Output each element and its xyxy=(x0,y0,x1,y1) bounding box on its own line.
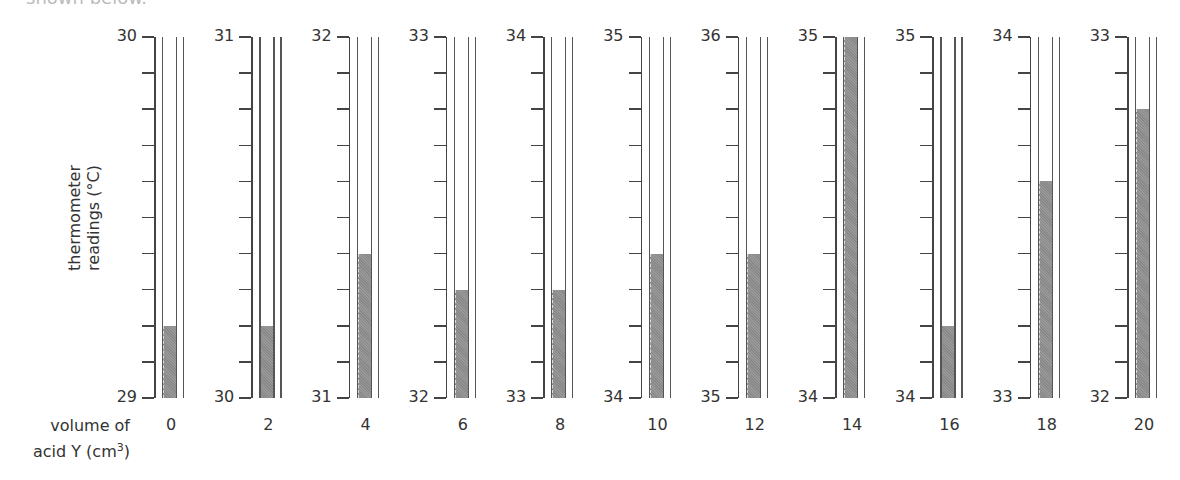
scale-bottom-label: 29 xyxy=(97,387,137,406)
scale-tick xyxy=(1018,217,1030,219)
scale-tick xyxy=(629,325,641,327)
mercury-column xyxy=(1136,109,1150,398)
scale-bottom-label: 33 xyxy=(973,387,1013,406)
scale-tick xyxy=(823,181,835,183)
scale-tick xyxy=(434,181,446,183)
scale-tick xyxy=(239,108,251,110)
scale-top-label: 31 xyxy=(194,26,234,45)
scale-tick xyxy=(434,325,446,327)
scale-tick xyxy=(1018,72,1030,74)
scale-tick xyxy=(434,36,446,38)
scale-tick xyxy=(823,72,835,74)
scale-line xyxy=(543,37,545,398)
x-axis-unit-close: ) xyxy=(124,442,130,461)
scale-tick xyxy=(920,145,932,147)
scale-tick xyxy=(434,397,446,399)
scale-tick xyxy=(629,181,641,183)
tube-wall-left xyxy=(162,37,163,398)
scale-tick xyxy=(142,145,154,147)
scale-tick xyxy=(239,361,251,363)
scale-tick xyxy=(920,397,932,399)
scale-tick xyxy=(142,108,154,110)
scale-tick xyxy=(1018,181,1030,183)
volume-label: 16 xyxy=(929,415,969,434)
scale-tick xyxy=(434,361,446,363)
scale-tick xyxy=(920,108,932,110)
scale-tick xyxy=(531,253,543,255)
mercury-column xyxy=(941,326,955,398)
scale-tick xyxy=(239,289,251,291)
scale-tick xyxy=(726,289,738,291)
scale-tick xyxy=(239,72,251,74)
scale-tick xyxy=(920,181,932,183)
volume-label: 4 xyxy=(346,415,386,434)
scale-top-label: 32 xyxy=(292,26,332,45)
tube-wall-left xyxy=(940,37,941,398)
scale-tick xyxy=(823,145,835,147)
scale-line xyxy=(446,37,448,398)
volume-label: 10 xyxy=(638,415,678,434)
x-axis-label: volume of acid Y (cm3) xyxy=(20,415,130,463)
tube-wall-inner xyxy=(663,37,664,398)
tube-wall-right xyxy=(378,37,379,398)
scale-tick xyxy=(142,253,154,255)
mercury-column xyxy=(747,254,761,398)
scale-bottom-label: 33 xyxy=(486,387,526,406)
tube-wall-left xyxy=(843,37,844,398)
tube-wall-inner xyxy=(1052,37,1053,398)
scale-tick xyxy=(726,36,738,38)
scale-tick xyxy=(239,217,251,219)
scale-tick xyxy=(434,217,446,219)
scale-tick xyxy=(434,253,446,255)
tube-wall-left xyxy=(1135,37,1136,398)
tube-wall-right xyxy=(1059,37,1060,398)
scale-tick xyxy=(1018,289,1030,291)
scale-tick xyxy=(823,325,835,327)
scale-bottom-label: 32 xyxy=(389,387,429,406)
tube-wall-right xyxy=(767,37,768,398)
scale-tick xyxy=(434,289,446,291)
scale-tick xyxy=(337,289,349,291)
scale-top-label: 33 xyxy=(389,26,429,45)
scale-tick xyxy=(142,289,154,291)
scale-tick xyxy=(142,36,154,38)
scale-tick xyxy=(337,325,349,327)
scale-tick xyxy=(920,253,932,255)
scale-bottom-label: 32 xyxy=(1070,387,1110,406)
scale-tick xyxy=(531,145,543,147)
scale-tick xyxy=(920,72,932,74)
tube-wall-left xyxy=(259,37,260,398)
scale-bottom-label: 31 xyxy=(292,387,332,406)
tube-wall-inner xyxy=(565,37,566,398)
scale-tick xyxy=(142,72,154,74)
scale-tick xyxy=(1018,145,1030,147)
scale-top-label: 34 xyxy=(486,26,526,45)
scale-tick xyxy=(1115,361,1127,363)
scale-tick xyxy=(142,397,154,399)
scale-tick xyxy=(337,36,349,38)
scale-tick xyxy=(629,289,641,291)
scale-tick xyxy=(726,397,738,399)
scale-tick xyxy=(531,108,543,110)
scale-tick xyxy=(337,361,349,363)
scale-tick xyxy=(1115,253,1127,255)
scale-tick xyxy=(531,289,543,291)
scale-tick xyxy=(920,325,932,327)
scale-tick xyxy=(920,36,932,38)
scale-tick xyxy=(823,253,835,255)
scale-line xyxy=(154,37,156,398)
scale-tick xyxy=(920,361,932,363)
x-axis-unit-sup: 3 xyxy=(117,441,124,454)
tube-wall-right xyxy=(864,37,865,398)
scale-tick xyxy=(823,217,835,219)
scale-tick xyxy=(726,361,738,363)
scale-line xyxy=(835,37,837,398)
y-axis-label-line1: thermometer xyxy=(65,118,84,318)
scale-tick xyxy=(434,145,446,147)
cropped-caption: shown below. xyxy=(26,0,147,8)
tube-wall-inner xyxy=(1149,37,1150,398)
scale-tick xyxy=(629,217,641,219)
tube-wall-inner xyxy=(468,37,469,398)
scale-tick xyxy=(531,181,543,183)
scale-tick xyxy=(726,181,738,183)
